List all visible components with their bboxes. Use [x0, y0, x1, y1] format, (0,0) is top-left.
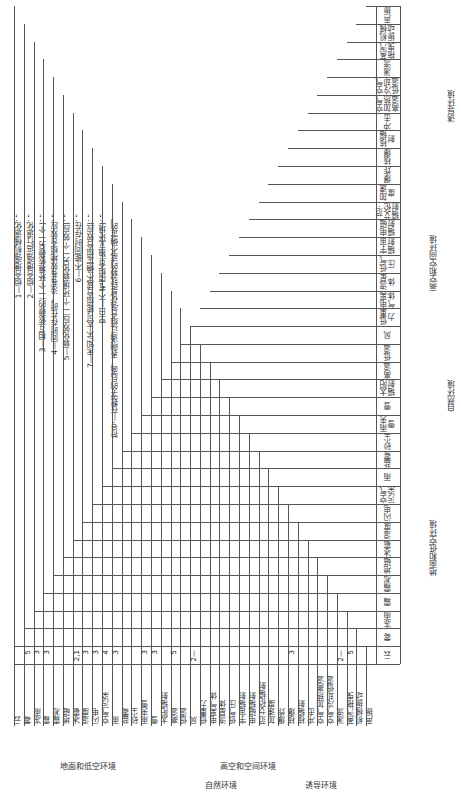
row-label: 核爆: [288, 666, 298, 724]
group-label-induced-bottom: 诱导环境: [305, 779, 337, 790]
matrix-cell: 5: [348, 650, 355, 654]
column-header: 盐雾: [376, 451, 400, 469]
row-label: 雾: [24, 666, 34, 724]
column-header: 核爆: [376, 148, 400, 166]
row-label: 霜: [43, 666, 53, 724]
matrix-cell: 4: [103, 650, 110, 654]
group-label-ground: 地面和低空环境: [60, 760, 116, 771]
row-label: 湿度: [82, 666, 92, 724]
row-label: 冻雨: [34, 666, 44, 724]
column-header: 声振: [376, 6, 400, 24]
group-label-natural-right: 自然环境: [446, 380, 457, 412]
matrix-cell: 2—: [191, 650, 198, 661]
column-header: 雪: [376, 397, 400, 415]
column-header: 宇宙辐射: [376, 237, 400, 255]
column-header: 电离气体: [376, 291, 400, 309]
matrix-cell: 3: [142, 650, 149, 654]
row-label: 冲击: [308, 666, 318, 724]
column-header: 低温: [376, 344, 400, 362]
matrix-cell: 2—: [338, 650, 345, 661]
row-label: 闪电: [92, 666, 102, 724]
row-label: 空气加热高温: [317, 666, 327, 724]
matrix-cell: 3: [44, 650, 51, 654]
column-header: 闪电: [376, 504, 400, 522]
column-header: 蒸汽拖曳: [376, 42, 400, 60]
row-label: 空气污染: [102, 666, 112, 724]
row-label: 声振: [366, 666, 376, 724]
matrix-cell: 3: [34, 650, 41, 654]
matrix-cell: 3: [93, 650, 100, 654]
column-header: 低重力: [376, 308, 400, 326]
column-header: 冰雹: [376, 540, 400, 558]
column-header: 冻雨: [376, 611, 400, 629]
column-header: 空气冷却低温: [376, 77, 400, 95]
column-header: 高温: [376, 362, 400, 380]
row-label: 地磁: [63, 666, 73, 724]
group-label-induced-right: 诱导环境: [446, 90, 457, 122]
group-label-ground-right: 地面和低空环境: [428, 520, 439, 576]
row-label: 雨: [112, 666, 122, 724]
row-label: 机械振动: [356, 666, 366, 724]
column-header: 机械振动: [376, 24, 400, 42]
row-label: 霜凇: [53, 666, 63, 724]
row-label: 电磁辐射: [249, 666, 259, 724]
column-header: 空气污染: [376, 486, 400, 504]
row-label: 低温: [180, 666, 190, 724]
row-label: 低气压: [229, 666, 239, 724]
combination-matrix: 云雾冻雨霜霜凇地磁冰雹湿度闪电空气污染雨盐雾砂尘雨夹雪雪太阳辐射高温低温风低重力…: [14, 6, 400, 726]
matrix-cell: 2,1: [74, 650, 81, 661]
column-header: 霜: [376, 593, 400, 611]
row-label: 核辐射: [298, 666, 308, 724]
group-label-high-bottom: 高空和空间环境: [220, 760, 276, 771]
matrix-cell: 3: [83, 650, 90, 654]
row-label: 风: [190, 666, 200, 724]
matrix-cell: 3: [152, 650, 159, 654]
column-header: 冲击: [376, 113, 400, 131]
row-label: 流星体: [219, 666, 229, 724]
column-header: 风: [376, 326, 400, 344]
row-label: 湍流: [337, 666, 347, 724]
row-label: 云: [14, 666, 24, 724]
column-header: 空气加热高温: [376, 95, 400, 113]
matrix-cell: 3: [113, 650, 120, 654]
row-label: 太阳辐射: [161, 666, 171, 724]
column-header: 太阳辐射: [376, 379, 400, 397]
column-header: 雨: [376, 468, 400, 486]
column-header: 雾: [376, 628, 400, 646]
matrix-cell: 5: [25, 650, 32, 654]
column-header: 砂尘: [376, 433, 400, 451]
row-label: 砂尘: [131, 666, 141, 724]
column-header: 霜凇: [376, 575, 400, 593]
column-header: 雨夹雪: [376, 415, 400, 433]
column-header: 低气压: [376, 255, 400, 273]
column-header: 核辐射: [376, 130, 400, 148]
group-label-high-right: 高空和空间环境: [428, 235, 439, 291]
column-header: 湿度: [376, 522, 400, 540]
column-header: 流星体: [376, 273, 400, 291]
row-label: 爆炸: [278, 666, 288, 724]
row-label: 低重力: [200, 666, 210, 724]
column-header: 爆炸: [376, 166, 400, 184]
group-label-natural: 自然环境: [205, 779, 237, 790]
matrix-cell: 3: [289, 650, 296, 654]
column-header: 地磁: [376, 557, 400, 575]
row-label: 宇宙辐射: [239, 666, 249, 724]
column-header: 范·艾伦辐射: [376, 202, 400, 220]
row-label: 雪: [151, 666, 161, 724]
row-label: 加速度: [268, 666, 278, 724]
column-header: 电磁辐射: [376, 219, 400, 237]
row-label: 高温: [171, 666, 181, 724]
row-label: 空气冷却低温: [327, 666, 337, 724]
column-header: 湍流: [376, 59, 400, 77]
column-header: 云: [376, 646, 400, 664]
row-label: 雨夹雪: [141, 666, 151, 724]
matrix-cell: 5: [171, 650, 178, 654]
column-header: 加速度: [376, 184, 400, 202]
